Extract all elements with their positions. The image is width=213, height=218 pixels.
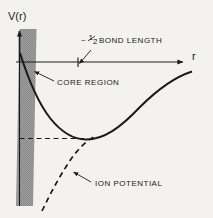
- bond-length-tilde: ~: [81, 36, 86, 45]
- bond-length-text: BOND LENGTH: [99, 36, 162, 45]
- y-axis-label: V(r): [8, 10, 26, 22]
- ion-potential-label: ION POTENTIAL: [95, 179, 162, 188]
- x-axis-label: r: [192, 50, 196, 62]
- core-region-label: CORE REGION: [57, 78, 119, 87]
- bond-length-denominator: 2: [93, 37, 98, 46]
- figure-canvas: V(r) r ~ 1 2 BOND LENGTH CORE REGION ION…: [0, 0, 213, 218]
- potential-energy-figure: V(r) r ~ 1 2 BOND LENGTH CORE REGION ION…: [0, 0, 213, 218]
